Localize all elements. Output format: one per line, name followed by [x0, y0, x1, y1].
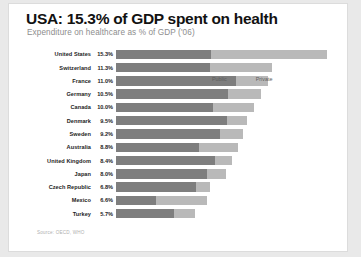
chart-row: Mexico6.6%: [25, 194, 337, 207]
bar-segment-public: [116, 209, 174, 218]
bar-segment-public: [116, 63, 210, 72]
value-label: 11.3%: [91, 65, 116, 71]
stacked-bar: [116, 196, 207, 205]
stacked-bar: [116, 103, 254, 112]
bar-segment-public: [116, 103, 213, 112]
bar-segment-private: [213, 103, 254, 112]
value-label: 5.7%: [91, 211, 116, 217]
legend-label: Public: [212, 76, 227, 82]
bar-track: [116, 143, 337, 152]
bar-segment-public: [116, 156, 215, 165]
bar-segment-public: [116, 129, 220, 138]
country-label: Germany: [25, 91, 91, 97]
bar-segment-private: [207, 169, 226, 178]
stacked-bar: [116, 143, 238, 152]
bar-track: [116, 89, 337, 98]
country-label: Japan: [25, 171, 91, 177]
bar-track: [116, 103, 337, 112]
value-label: 15.3%: [91, 51, 116, 57]
chart-row: Denmark9.5%: [25, 114, 337, 127]
stacked-bar: [116, 169, 227, 178]
legend-item: Private: [249, 76, 273, 82]
stacked-bar: [116, 116, 247, 125]
chart-subtitle: Expenditure on healthcare as % of GDP ('…: [27, 28, 195, 37]
chart-legend: PublicPrivate: [205, 76, 272, 82]
country-label: United States: [25, 51, 91, 57]
country-label: Mexico: [25, 197, 91, 203]
chart-row: Germany10.5%: [25, 88, 337, 101]
stacked-bar: [116, 156, 232, 165]
bar-segment-public: [116, 196, 156, 205]
value-label: 11.0%: [91, 78, 116, 84]
stacked-bar: [116, 63, 272, 72]
country-label: Australia: [25, 144, 91, 150]
bar-track: [116, 50, 337, 59]
chart-row: Canada10.0%: [25, 101, 337, 114]
chart-row: Japan8.0%: [25, 168, 337, 181]
legend-item: Public: [205, 76, 227, 82]
value-label: 8.0%: [91, 171, 116, 177]
bar-track: [116, 63, 337, 72]
bar-segment-private: [228, 89, 261, 98]
chart-row: United States15.3%: [25, 48, 337, 61]
country-label: Canada: [25, 104, 91, 110]
bar-segment-public: [116, 143, 199, 152]
bar-segment-private: [196, 182, 210, 191]
value-label: 10.0%: [91, 104, 116, 110]
chart-row: Sweden9.2%: [25, 128, 337, 141]
stacked-bar: [116, 129, 243, 138]
stacked-bar: [116, 182, 210, 191]
bar-track: [116, 182, 337, 191]
value-label: 8.4%: [91, 158, 116, 164]
value-label: 6.6%: [91, 197, 116, 203]
bar-segment-private: [174, 209, 195, 218]
value-label: 6.8%: [91, 184, 116, 190]
legend-label: Private: [256, 76, 273, 82]
bar-track: [116, 169, 337, 178]
legend-swatch-icon: [249, 77, 253, 81]
chart-row: Turkey5.7%: [25, 207, 337, 220]
chart-row: United Kingdom8.4%: [25, 154, 337, 167]
stacked-bar: [116, 89, 261, 98]
stacked-bar: [116, 209, 195, 218]
bar-segment-public: [116, 89, 228, 98]
bar-segment-private: [210, 63, 272, 72]
bar-segment-private: [156, 196, 207, 205]
bar-track: [116, 196, 337, 205]
legend-swatch-icon: [205, 77, 209, 81]
bar-segment-public: [116, 169, 207, 178]
value-label: 9.5%: [91, 118, 116, 124]
bar-segment-private: [220, 129, 243, 138]
chart-row: Czech Republic6.8%: [25, 181, 337, 194]
chart-card: USA: 15.3% of GDP spent on health Expend…: [8, 3, 348, 252]
country-label: France: [25, 78, 91, 84]
page-title: USA: 15.3% of GDP spent on health: [26, 10, 278, 28]
chart-row: Australia8.8%: [25, 141, 337, 154]
bar-segment-private: [199, 143, 238, 152]
bar-chart-plot: United States15.3%Switzerland11.3%France…: [25, 48, 337, 223]
bar-segment-private: [227, 116, 248, 125]
country-label: Denmark: [25, 118, 91, 124]
country-label: Czech Republic: [25, 184, 91, 190]
value-label: 8.8%: [91, 144, 116, 150]
value-label: 9.2%: [91, 131, 116, 137]
bar-segment-private: [211, 50, 327, 59]
bar-track: [116, 209, 337, 218]
bar-segment-public: [116, 50, 211, 59]
bar-track: [116, 129, 337, 138]
country-label: Sweden: [25, 131, 91, 137]
stacked-bar: [116, 50, 327, 59]
bar-track: [116, 116, 337, 125]
bar-segment-public: [116, 182, 196, 191]
bar-track: [116, 156, 337, 165]
country-label: Turkey: [25, 211, 91, 217]
value-label: 10.5%: [91, 91, 116, 97]
country-label: Switzerland: [25, 65, 91, 71]
bar-segment-public: [116, 116, 227, 125]
bar-segment-private: [215, 156, 232, 165]
chart-row: Switzerland11.3%: [25, 61, 337, 74]
source-note: Source: OECD, WHO: [37, 230, 85, 235]
chart-row: France11.0%: [25, 75, 337, 88]
country-label: United Kingdom: [25, 158, 91, 164]
